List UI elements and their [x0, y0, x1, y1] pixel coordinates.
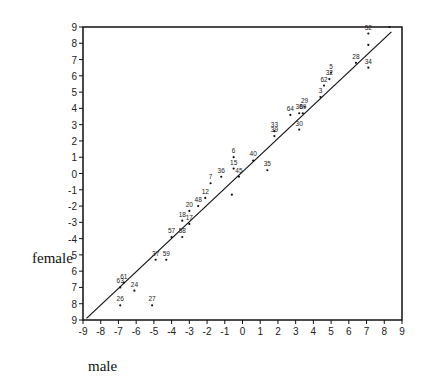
point-label: 58: [179, 227, 187, 234]
data-point: [388, 26, 390, 28]
x-tick-label: -1: [220, 326, 229, 337]
point-label: 30: [296, 120, 304, 127]
x-tick-label: 7: [364, 326, 370, 337]
y-tick-label: 5: [71, 87, 77, 98]
point-label: 20: [186, 201, 194, 208]
point-label: 28: [352, 53, 360, 60]
point-label: 34: [365, 58, 373, 65]
point-label: 6: [232, 147, 236, 154]
data-point: [238, 176, 240, 178]
y-tick-label: 2: [71, 136, 77, 147]
x-tick-label: -7: [114, 326, 123, 337]
y-tick-label: 9: [71, 22, 77, 33]
data-point: [188, 210, 190, 212]
point-label: 52: [365, 24, 373, 31]
x-tick-label: -8: [96, 326, 105, 337]
data-point: [367, 44, 369, 46]
data-point: [220, 176, 222, 178]
point-label: 27: [148, 295, 156, 302]
data-point: [355, 62, 357, 64]
y-tick-label: 8: [71, 299, 77, 310]
point-label: 17: [186, 214, 194, 221]
y-tick-label: 6: [71, 71, 77, 82]
data-point: [210, 182, 212, 184]
y-tick-label: 7: [71, 55, 77, 66]
x-tick-label: -2: [203, 326, 212, 337]
point-label: 69: [299, 103, 307, 110]
x-tick-label: 2: [275, 326, 281, 337]
point-label: 24: [131, 281, 139, 288]
data-point: [133, 290, 135, 292]
y-axis-label: female: [32, 250, 73, 267]
x-tick-label: -3: [185, 326, 194, 337]
point-label: 12: [202, 188, 210, 195]
data-point: [273, 135, 275, 137]
y-tick-label: 7: [71, 282, 77, 293]
data-point: [204, 197, 206, 199]
data-point: [252, 159, 254, 161]
scatter-plot: -9-8-7-6-5-4-3-2-101234567899876543210-1…: [0, 0, 426, 391]
data-point: [188, 223, 190, 225]
data-point: [181, 220, 183, 222]
y-tick-label: -1: [68, 185, 77, 196]
y-tick-label: 6: [71, 266, 77, 277]
y-tick-label: 0: [71, 169, 77, 180]
data-point: [367, 32, 369, 34]
x-axis-label: male: [88, 358, 117, 375]
x-tick-label: -4: [167, 326, 176, 337]
data-point: [367, 67, 369, 69]
x-tick-label: 0: [240, 326, 246, 337]
data-point: [298, 128, 300, 130]
y-tick-label: -3: [68, 217, 77, 228]
point-label: 7: [209, 173, 213, 180]
point-label: 64: [287, 105, 295, 112]
y-tick-label: -2: [68, 201, 77, 212]
point-label: 63: [117, 277, 125, 284]
x-tick-label: -6: [132, 326, 141, 337]
x-tick-label: 4: [311, 326, 317, 337]
x-tick-label: 5: [328, 326, 334, 337]
point-label: 40: [250, 150, 258, 157]
x-tick-label: 9: [399, 326, 405, 337]
point-label: 3: [319, 87, 323, 94]
y-tick-label: -4: [68, 234, 77, 245]
y-tick-label: 9: [71, 315, 77, 326]
data-point: [151, 304, 153, 306]
point-label: 45: [235, 167, 243, 174]
data-point: [119, 304, 121, 306]
point-label: 37: [152, 250, 160, 257]
data-point: [165, 259, 167, 261]
point-label: 35: [264, 160, 272, 167]
x-tick-label: 8: [381, 326, 387, 337]
x-tick-label: 3: [293, 326, 299, 337]
point-label: 48: [195, 196, 203, 203]
data-point: [289, 114, 291, 116]
data-point: [231, 194, 233, 196]
data-point: [171, 236, 173, 238]
x-tick-label: 6: [346, 326, 352, 337]
point-label: 62: [320, 76, 328, 83]
data-point: [323, 85, 325, 87]
data-point: [266, 169, 268, 171]
x-tick-label: -9: [79, 326, 88, 337]
data-point: [298, 112, 300, 114]
x-tick-label: -5: [149, 326, 158, 337]
point-label: 15: [230, 159, 238, 166]
reference-line: [87, 32, 392, 318]
data-point: [302, 112, 304, 114]
point-label: 36: [218, 167, 226, 174]
y-tick-label: 8: [71, 38, 77, 49]
data-point: [328, 78, 330, 80]
point-label: 26: [117, 295, 125, 302]
y-tick-label: 1: [71, 152, 77, 163]
y-tick-label: 3: [71, 120, 77, 131]
x-tick-label: 1: [257, 326, 263, 337]
data-point: [197, 205, 199, 207]
y-tick-label: 4: [71, 103, 77, 114]
data-point: [119, 286, 121, 288]
point-label: 59: [163, 250, 171, 257]
point-label: 39: [271, 126, 279, 133]
point-label: 57: [168, 227, 176, 234]
data-point: [319, 96, 321, 98]
data-point: [155, 259, 157, 261]
